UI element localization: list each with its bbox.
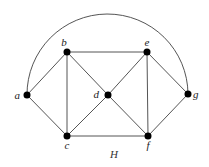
edge-a-g: [27, 14, 188, 95]
edge-b-d: [67, 52, 108, 95]
edge-c-d: [67, 95, 108, 136]
node-e: [144, 49, 151, 56]
node-g: [185, 91, 192, 98]
nodes-layer: [24, 49, 192, 140]
node-d: [105, 92, 112, 99]
edge-a-b: [27, 52, 67, 95]
node-label-e: e: [145, 36, 150, 48]
edges-layer: [27, 14, 188, 136]
node-label-c: c: [65, 139, 70, 151]
node-label-a: a: [15, 89, 21, 101]
node-a: [24, 92, 31, 99]
node-label-d: d: [94, 88, 100, 100]
edge-e-g: [147, 52, 188, 94]
node-label-b: b: [61, 36, 67, 48]
graph-title: H: [109, 148, 119, 160]
graph-diagram: abcdefg H: [0, 0, 209, 167]
edge-a-c: [27, 95, 67, 136]
edge-d-f: [108, 95, 148, 136]
node-b: [64, 49, 71, 56]
edge-e-f: [147, 52, 148, 136]
node-label-g: g: [193, 88, 199, 100]
node-label-f: f: [146, 139, 151, 151]
edge-f-g: [148, 94, 188, 136]
edge-d-e: [108, 52, 147, 95]
